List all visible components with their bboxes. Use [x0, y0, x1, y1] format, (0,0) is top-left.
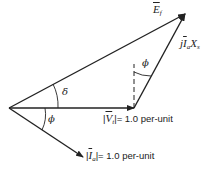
- phi-upper-arc: [134, 72, 151, 76]
- phi-upper-symbol: ϕ: [142, 57, 149, 68]
- ef-label: Ef: [153, 4, 162, 17]
- phi-lower-symbol: ϕ: [48, 113, 55, 124]
- delta-symbol: δ: [62, 86, 68, 97]
- ia-label: |Ia|= 1.0 per-unit: [86, 150, 154, 163]
- phasor-vectors: [0, 0, 209, 171]
- phasor-diagram: Ef jIaXs |Vt|= 1.0 per-unit |Ia|= 1.0 pe…: [0, 0, 209, 171]
- jiaxs-label: jIaXs: [180, 38, 200, 51]
- phi-lower-arc: [42, 108, 46, 130]
- ef-vector: [9, 14, 185, 108]
- vt-label: |Vt|= 1.0 per-unit: [103, 113, 173, 126]
- delta-arc: [53, 84, 58, 108]
